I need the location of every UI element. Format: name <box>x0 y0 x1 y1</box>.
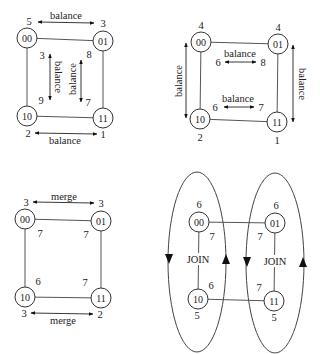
node-label: 11 <box>269 296 279 307</box>
load-value: 5 <box>194 310 199 321</box>
node-label: 11 <box>98 113 108 124</box>
edge-00-10 <box>200 52 201 109</box>
operation-label: balance <box>297 68 308 100</box>
join-label: JOIN <box>187 254 210 265</box>
diagram-balance-diagonal: 00011011balancebalancebalancebalance5338… <box>17 10 113 146</box>
load-value: 1 <box>100 129 105 140</box>
up-triangle-icon <box>299 257 307 267</box>
node-10: 10 <box>15 287 35 307</box>
load-value: 6 <box>196 199 201 210</box>
load-value: 5 <box>271 312 276 323</box>
edge-00-01 <box>209 222 265 223</box>
node-10: 10 <box>188 289 208 309</box>
node-00: 00 <box>17 28 37 48</box>
edge-10-11 <box>208 299 264 300</box>
operation-label: balance <box>50 10 82 21</box>
operation-label: balance <box>53 61 64 93</box>
double-arrow-icon <box>33 202 94 203</box>
node-11: 11 <box>93 108 113 128</box>
edge-00-01 <box>35 219 91 220</box>
node-label: 10 <box>193 294 203 305</box>
node-10: 10 <box>17 106 37 126</box>
node-label: 00 <box>196 37 206 48</box>
node-11: 11 <box>91 288 111 308</box>
join-label: JOIN <box>264 256 287 267</box>
diagram-balance-dimension: 00011011balancebalancebalancebalance4468… <box>173 20 308 146</box>
operation-label: balance <box>173 65 184 97</box>
load-value: 2 <box>97 309 102 320</box>
load-value: 3 <box>23 197 28 208</box>
load-value: 6 <box>215 57 220 68</box>
load-value: 7 <box>83 229 88 240</box>
operation-label: balance <box>224 48 256 59</box>
load-value: 1 <box>274 135 279 146</box>
up-triangle-icon <box>222 254 230 264</box>
edge-01-11 <box>277 54 278 112</box>
load-value: 3 <box>21 308 26 319</box>
node-00: 00 <box>191 32 211 52</box>
load-value: 9 <box>38 95 43 106</box>
edge-10-11 <box>210 119 267 121</box>
operation-label: balance <box>67 63 78 95</box>
node-01: 01 <box>268 34 288 54</box>
operation-label: merge <box>50 315 76 326</box>
load-value: 7 <box>37 228 42 239</box>
load-value: 8 <box>86 49 91 60</box>
load-value: 3 <box>39 50 44 61</box>
load-value: 3 <box>98 198 103 209</box>
edge-10-11 <box>35 297 91 298</box>
node-label: 00 <box>20 214 30 225</box>
load-value: 2 <box>25 128 30 139</box>
node-label: 10 <box>195 114 205 125</box>
edge-10-11 <box>37 116 93 117</box>
node-00: 00 <box>189 212 209 232</box>
load-value: 7 <box>258 102 263 113</box>
diagram-canvas: 00011011balancebalancebalancebalance5338… <box>0 0 320 354</box>
load-value: 7 <box>256 282 261 293</box>
node-11: 11 <box>267 112 287 132</box>
load-value: 3 <box>100 18 105 29</box>
node-label: 11 <box>96 293 106 304</box>
node-00: 00 <box>15 209 35 229</box>
node-01: 01 <box>93 31 113 51</box>
load-value: 7 <box>257 231 262 242</box>
node-11: 11 <box>264 291 284 311</box>
edge-00-01 <box>37 38 93 40</box>
node-label: 01 <box>270 218 280 229</box>
node-label: 10 <box>20 292 30 303</box>
node-01: 01 <box>265 213 285 233</box>
load-value: 6 <box>35 276 40 287</box>
node-label: 00 <box>22 33 32 44</box>
node-label: 01 <box>96 216 106 227</box>
node-label: 01 <box>273 39 283 50</box>
operation-label: balance <box>222 93 254 104</box>
double-arrow-icon <box>38 22 94 23</box>
load-value: 6 <box>208 280 213 291</box>
operation-label: balance <box>49 135 81 146</box>
load-value: 7 <box>209 231 214 242</box>
load-value: 5 <box>26 16 31 27</box>
load-value: 7 <box>82 277 87 288</box>
node-label: 11 <box>272 117 282 128</box>
diagram-merge: 00011011mergemerge33776732 <box>15 191 111 326</box>
down-triangle-icon <box>165 254 173 264</box>
load-value: 2 <box>197 132 202 143</box>
node-label: 10 <box>22 111 32 122</box>
diagram-join: 00011011JOINJOIN67656775 <box>165 172 307 353</box>
load-value: 8 <box>260 57 265 68</box>
node-label: 00 <box>194 217 204 228</box>
node-01: 01 <box>91 211 111 231</box>
operation-label: merge <box>51 191 77 202</box>
load-value: 7 <box>85 97 90 108</box>
node-label: 01 <box>98 36 108 47</box>
load-value: 6 <box>273 200 278 211</box>
load-value: 6 <box>212 102 217 113</box>
node-10: 10 <box>190 109 210 129</box>
edge-00-01 <box>211 42 268 43</box>
load-value: 4 <box>198 20 204 31</box>
down-triangle-icon <box>243 257 251 267</box>
load-value: 4 <box>275 22 281 33</box>
